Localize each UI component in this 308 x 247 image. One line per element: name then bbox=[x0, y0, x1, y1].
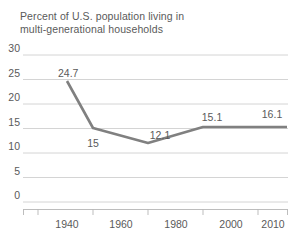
data-label-1940: 24.7 bbox=[58, 67, 79, 79]
data-label-1960: 15 bbox=[87, 137, 99, 149]
y-tick-25: 25 bbox=[8, 67, 20, 79]
x-axis-labels: 1940 1960 1980 2000 2010 bbox=[55, 218, 285, 230]
y-tick-10: 10 bbox=[8, 140, 20, 152]
x-tick-label-2000: 2000 bbox=[219, 218, 243, 230]
x-tick-label-1980: 1980 bbox=[164, 218, 188, 230]
data-label-1980: 12.1 bbox=[150, 129, 171, 141]
x-tick-label-1960: 1960 bbox=[109, 218, 133, 230]
y-axis-labels: 30 25 20 15 10 5 0 bbox=[8, 42, 20, 201]
chart-figure: Percent of U.S. population living in mul… bbox=[0, 0, 308, 247]
y-tick-20: 20 bbox=[8, 91, 20, 103]
data-label-2000: 15.1 bbox=[202, 111, 223, 123]
data-label-2010: 16.1 bbox=[262, 108, 283, 120]
x-axis bbox=[23, 210, 288, 216]
y-tick-15: 15 bbox=[8, 116, 20, 128]
x-tick-label-2010: 2010 bbox=[261, 218, 285, 230]
y-tick-0: 0 bbox=[14, 189, 20, 201]
x-tick-label-1940: 1940 bbox=[55, 218, 79, 230]
y-tick-30: 30 bbox=[8, 42, 20, 54]
y-tick-5: 5 bbox=[14, 165, 20, 177]
line-chart-plot: 30 25 20 15 10 5 0 1940 1960 1980 2000 2… bbox=[0, 0, 308, 247]
series-line-multigenerational bbox=[67, 81, 287, 143]
